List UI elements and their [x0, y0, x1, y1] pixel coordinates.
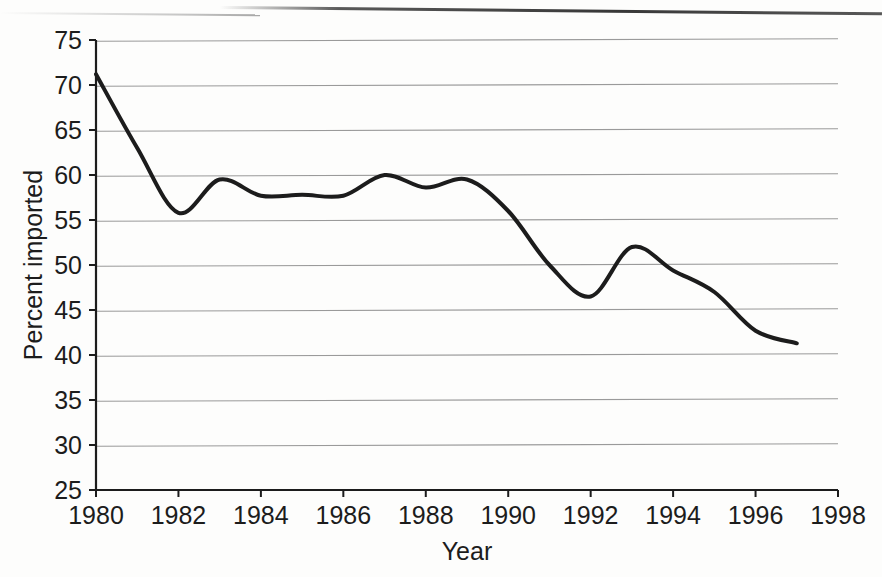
- gridline: [96, 84, 838, 86]
- y-axis-tick-labels: 2530354045505560657075: [54, 26, 82, 504]
- figure-canvas: 2530354045505560657075 19801982198419861…: [0, 0, 882, 577]
- y-tick-label: 35: [54, 386, 82, 414]
- y-tick-label: 40: [54, 341, 82, 369]
- x-axis-tick-labels: 1980198219841986198819901992199419961998: [68, 501, 866, 529]
- gridline: [96, 219, 838, 221]
- x-tick-label: 1984: [233, 501, 289, 529]
- gridline: [96, 129, 838, 131]
- y-tick-label: 70: [54, 71, 82, 99]
- y-tick-label: 45: [54, 296, 82, 324]
- x-tick-label: 1992: [563, 501, 619, 529]
- gridlines: [96, 39, 838, 446]
- x-axis-title: Year: [442, 537, 493, 565]
- y-tick-label: 65: [54, 116, 82, 144]
- x-tick-label: 1990: [480, 501, 536, 529]
- x-tick-label: 1998: [810, 501, 866, 529]
- gridline: [96, 354, 838, 356]
- y-axis-title: Percent imported: [19, 170, 47, 360]
- gridline: [96, 174, 838, 176]
- y-tick-label: 30: [54, 431, 82, 459]
- x-tick-label: 1980: [68, 501, 124, 529]
- x-tick-label: 1986: [316, 501, 372, 529]
- x-tick-label: 1996: [728, 501, 784, 529]
- gridline: [96, 39, 838, 41]
- gridline: [96, 399, 838, 401]
- gridline: [96, 444, 838, 446]
- y-tick-label: 50: [54, 251, 82, 279]
- x-tick-label: 1994: [645, 501, 701, 529]
- y-tick-label: 55: [54, 206, 82, 234]
- x-tick-label: 1982: [151, 501, 207, 529]
- line-chart: 2530354045505560657075 19801982198419861…: [0, 0, 882, 577]
- data-series-line: [96, 74, 797, 343]
- gridline: [96, 309, 838, 311]
- y-tick-label: 60: [54, 161, 82, 189]
- y-tick-label: 75: [54, 26, 82, 54]
- x-tick-label: 1988: [398, 501, 454, 529]
- y-tick-label: 25: [54, 476, 82, 504]
- gridline: [96, 264, 838, 266]
